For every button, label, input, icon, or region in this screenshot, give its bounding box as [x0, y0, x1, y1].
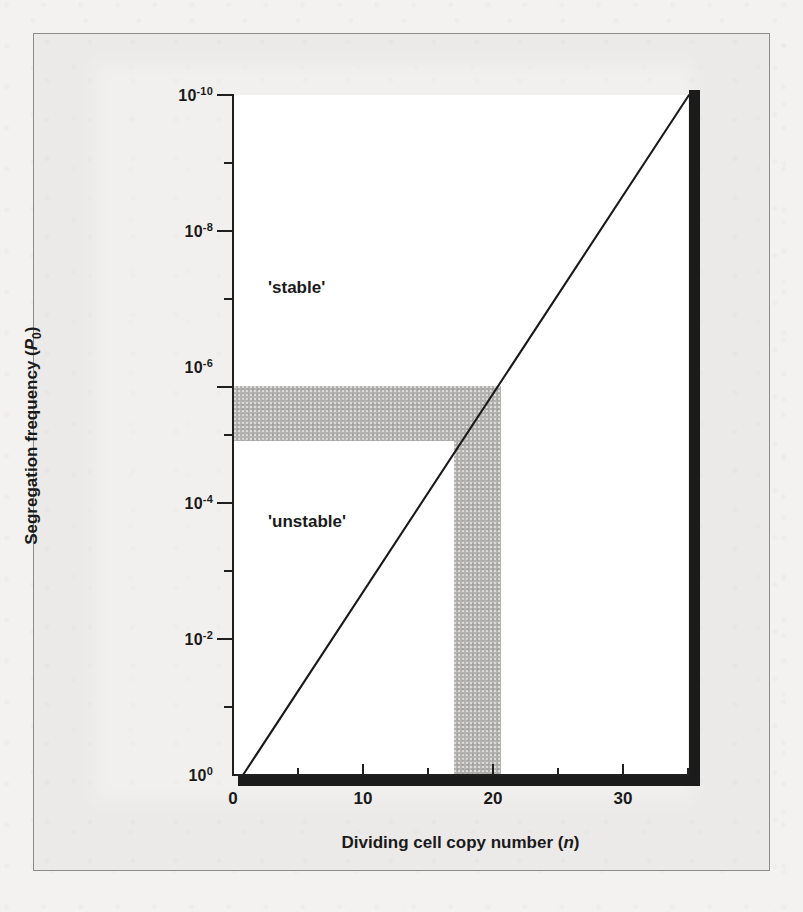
x-axis-title-main: Dividing cell copy number (	[341, 833, 563, 852]
y-axis-title-tail: )	[22, 327, 41, 333]
x-tick-major-3	[622, 764, 624, 776]
x-tick-major-0	[232, 764, 234, 776]
y-tick-minor-4	[224, 706, 234, 708]
x-tick-label-2: 20	[463, 789, 523, 809]
y-tick-major-4	[217, 638, 234, 640]
y-tick-major-3	[217, 502, 234, 504]
x-tick-major-1	[362, 764, 364, 776]
x-tick-label-3: 30	[593, 789, 653, 809]
y-tick-major-1	[217, 230, 234, 232]
y-tick-minor-1	[224, 298, 234, 300]
x-tick-minor-0	[297, 768, 299, 776]
x-tick-major-2	[492, 764, 494, 776]
x-tick-minor-3	[687, 768, 689, 776]
annotation-stable: 'stable'	[268, 278, 325, 298]
y-tick-label-4: 10-2	[133, 629, 213, 649]
figure-page: 10-10 10-8 10-6 10-4 10-2 100 0 10 20 30…	[0, 0, 803, 912]
y-tick-label-3: 10-4	[133, 493, 213, 513]
y-tick-label-5: 100	[133, 765, 213, 785]
y-axis-title-subscript: 0	[30, 332, 44, 339]
y-tick-minor-3	[224, 570, 234, 572]
y-tick-major-2	[217, 386, 234, 388]
y-tick-minor-0	[224, 162, 234, 164]
y-tick-major-0	[217, 94, 234, 96]
x-tick-minor-1	[427, 768, 429, 776]
x-axis-title-variable: n	[563, 833, 573, 852]
x-axis-title: Dividing cell copy number (n)	[233, 833, 688, 853]
x-tick-minor-2	[557, 768, 559, 776]
y-axis-title-variable: P	[22, 339, 41, 350]
x-tick-label-1: 10	[333, 789, 393, 809]
y-tick-label-0: 10-10	[133, 85, 213, 105]
y-tick-minor-2	[224, 434, 234, 436]
annotation-unstable: 'unstable'	[268, 512, 346, 532]
y-axis-title-main: Segregation frequency (	[22, 350, 41, 545]
x-axis-title-tail: )	[574, 833, 580, 852]
y-tick-label-1: 10-8	[133, 221, 213, 241]
x-tick-label-0: 0	[203, 789, 263, 809]
y-axis-title: Segregation frequency (P0)	[22, 206, 43, 666]
axis-shadow-bar-right	[689, 90, 700, 786]
shaded-region-vertical-band	[454, 386, 501, 775]
y-tick-label-2: 10-6	[133, 357, 213, 377]
axis-shadow-bar-bottom	[238, 775, 700, 786]
